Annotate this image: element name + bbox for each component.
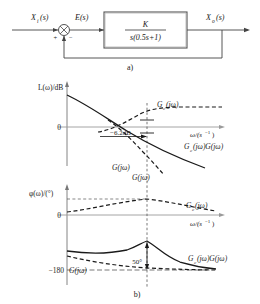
magnitude-label-gc-argument: (jω) [166,100,179,109]
control-system-figure: + − K s(0.5s+1) X i (s) E(s) X o (s) [0,0,260,304]
phase-label-gc-argument: (jω) [195,201,208,210]
magnitude-zero-tick-label: 0 [57,123,61,132]
magnitude-label-gc-group: G c (jω) [157,100,179,111]
phase-minus180-tick-label: −180 [49,266,65,275]
input-label-argument: (s) [40,13,49,22]
phase-x-axis-label-exponent: −1 [205,219,211,224]
magnitude-x-axis-label: ω/(s [190,131,202,139]
transfer-function-numerator: K [142,20,149,29]
caption-b: b) [134,290,141,299]
phase-label-gc-group: G c (jω) [186,201,208,212]
figure-root: + − K s(0.5s+1) X i (s) E(s) X o (s) [0,0,260,304]
summing-minus-sign: − [69,34,73,41]
error-label: E(s) [74,13,89,22]
output-label-subscript: o [212,18,215,24]
phase-upper-label-g: G(jω) [132,173,150,182]
phase-zero-tick-label: 0 [57,211,61,220]
magnitude-x-axis-label-exponent: −1 [205,130,211,135]
transfer-function-denominator: s(0.5s+1) [130,33,161,42]
phase-y-axis-label: φ(ω)/(°) [29,189,54,198]
summing-plus-sign: + [54,34,58,41]
phase-label-gc-g-argument: (jω)G(jω) [197,254,228,263]
output-label-argument: (s) [216,13,225,22]
phase-margin-annotation: 50° [132,258,142,266]
magnitude-label-g: G(jω) [112,163,130,172]
magnitude-y-axis-label: L(ω)/dB [38,83,63,92]
phase-x-axis-label: ω/(s [190,220,202,228]
magnitude-label-gc-g-argument: (jω)G(jω) [193,142,224,151]
phase-label-g: G(jω) [69,266,87,275]
input-label-group: X i (s) [30,13,49,24]
magnitude-gain-annotation: −6.2dB [110,129,131,137]
caption-a: a) [127,63,134,72]
